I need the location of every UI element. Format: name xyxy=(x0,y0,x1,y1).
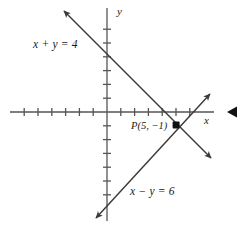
coordinate-plane-figure: y x x + y = 4 x − y = 6 P(5, −1) xyxy=(0,0,250,229)
x-axis-label: x xyxy=(204,115,209,126)
line-label-x-minus-y-equals-6: x − y = 6 xyxy=(130,186,175,198)
left-pointing-triangle-icon xyxy=(227,107,237,118)
y-axis-label: y xyxy=(117,6,122,17)
line-x-plus-y-equals-4 xyxy=(64,11,211,158)
graph-canvas xyxy=(0,0,250,229)
intersection-point-marker xyxy=(173,122,180,129)
intersection-point-label: P(5, −1) xyxy=(131,121,167,132)
line-label-x-plus-y-equals-4: x + y = 4 xyxy=(33,39,78,51)
